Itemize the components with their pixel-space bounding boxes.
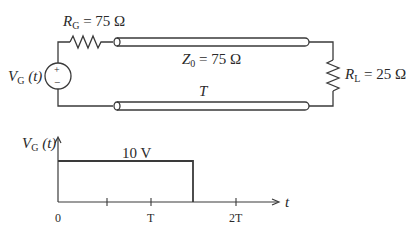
generator-resistor-icon	[70, 36, 113, 48]
load-resistor-label: RL = 25 Ω	[345, 67, 406, 82]
x-axis-label: t	[285, 195, 289, 210]
tick-label-2T: 2T	[229, 212, 242, 224]
source-plus: +	[54, 65, 60, 75]
generator-resistor-label: RG = 75 Ω	[63, 14, 125, 29]
load-bottom-wire	[309, 91, 333, 106]
bottom-conductor	[117, 102, 309, 110]
source-bottom-wire	[58, 89, 113, 106]
line-delay-label: T	[199, 84, 207, 99]
y-axis-label: VG (t)	[22, 136, 56, 151]
top-conductor	[117, 38, 309, 46]
pulse-trace	[58, 161, 193, 202]
load-top-wire	[309, 42, 333, 60]
tick-label-0: 0	[55, 212, 61, 224]
source-minus: −	[54, 77, 60, 88]
line-impedance-label: Z0 = 75 Ω	[182, 52, 241, 67]
circuit-diagram	[0, 0, 410, 231]
load-resistor-icon	[327, 60, 339, 91]
pulse-amplitude-label: 10 V	[122, 146, 151, 161]
source-top-wire	[58, 42, 70, 63]
source-label: VG (t)	[8, 69, 42, 84]
tick-label-T: T	[147, 212, 154, 224]
